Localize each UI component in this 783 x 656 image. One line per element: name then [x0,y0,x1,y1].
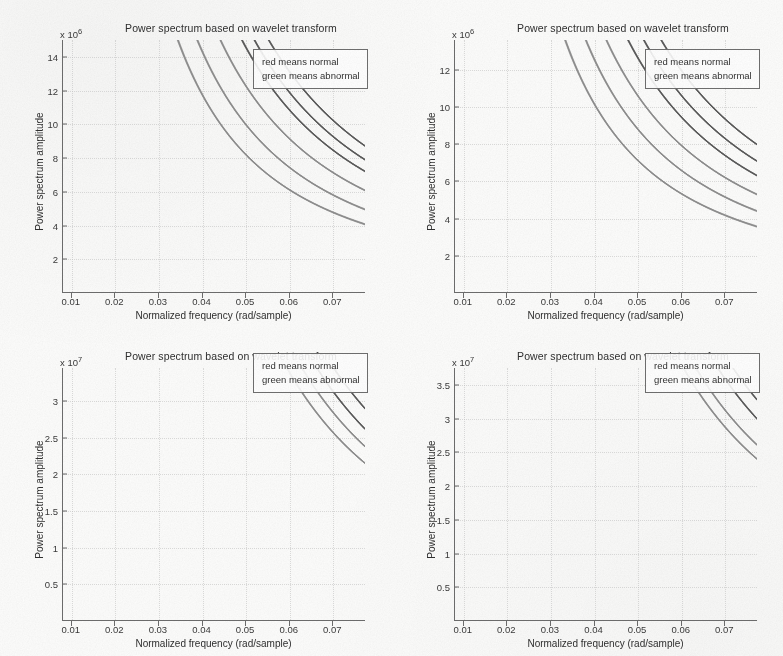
y-tick-label: 6 [53,186,58,197]
y-tick-label: 2.5 [437,447,450,458]
y-tick-mark [454,418,459,419]
y-tick-mark [454,106,459,107]
y-tick-mark [454,587,459,588]
y-tick-label: 8 [445,139,450,150]
y-tick-label: 0.5 [45,579,58,590]
legend-entry-abnormal: green means abnormal [654,373,752,387]
plot-panel-top-left: Power spectrum based on wavelet transfor… [0,0,391,328]
x-tick-labels: 0.010.020.030.040.050.060.07 [62,296,365,310]
x-tick-mark [637,621,638,626]
legend-box: red means normal green means abnormal [253,49,368,89]
y-tick-label: 3 [53,396,58,407]
x-tick-mark [681,621,682,626]
x-axis-label: Normalized frequency (rad/sample) [62,638,365,649]
y-tick-mark [454,255,459,256]
y-tick-label: 6 [445,176,450,187]
y-tick-mark [454,144,459,145]
x-tick-mark [506,293,507,298]
legend-box: red means normal green means abnormal [253,353,368,393]
y-axis-exponent-power: 6 [78,27,82,36]
y-tick-label: 3 [445,413,450,424]
legend-entry-abnormal: green means abnormal [262,373,360,387]
legend-entry-abnormal: green means abnormal [262,69,360,83]
y-tick-label: 1.5 [437,514,450,525]
x-tick-mark [463,621,464,626]
x-tick-mark [245,621,246,626]
y-tick-mark [62,584,67,585]
x-tick-labels: 0.010.020.030.040.050.060.07 [454,296,757,310]
x-tick-labels: 0.010.020.030.040.050.060.07 [454,624,757,638]
legend-box: red means normal green means abnormal [645,353,760,393]
x-tick-mark [158,293,159,298]
y-tick-mark [62,511,67,512]
y-tick-mark [62,401,67,402]
y-tick-label: 4 [445,213,450,224]
y-tick-mark [454,69,459,70]
x-tick-mark [332,293,333,298]
x-tick-mark [114,293,115,298]
y-tick-mark [454,553,459,554]
x-tick-mark [724,621,725,626]
x-tick-mark [332,621,333,626]
y-axis-exponent: x 107 [452,355,474,368]
y-tick-mark [454,218,459,219]
x-tick-mark [594,621,595,626]
plot-axes [454,368,757,621]
spectrum-curves [455,368,757,620]
x-tick-mark [158,621,159,626]
y-axis-exponent-base: x 10 [452,357,470,368]
y-tick-label: 2 [445,250,450,261]
x-tick-mark [463,293,464,298]
y-tick-label: 1 [53,542,58,553]
x-tick-mark [71,293,72,298]
y-tick-mark [62,124,67,125]
plot-title: Power spectrum based on wavelet transfor… [478,22,768,34]
y-tick-mark [454,181,459,182]
y-tick-mark [454,452,459,453]
y-tick-label: 0.5 [437,582,450,593]
y-tick-label: 2.5 [45,432,58,443]
legend-entry-normal: red means normal [654,359,752,373]
x-tick-mark [681,293,682,298]
y-tick-mark [454,519,459,520]
y-tick-label: 14 [47,51,58,62]
legend-entry-abnormal: green means abnormal [654,69,752,83]
y-tick-mark [62,158,67,159]
legend-entry-normal: red means normal [262,55,360,69]
y-axis-exponent: x 106 [452,27,474,40]
y-tick-mark [62,90,67,91]
y-tick-mark [62,547,67,548]
x-axis-label: Normalized frequency (rad/sample) [62,310,365,321]
x-axis-label: Normalized frequency (rad/sample) [454,638,757,649]
y-tick-label: 1 [445,548,450,559]
x-tick-mark [594,293,595,298]
legend-box: red means normal green means abnormal [645,49,760,89]
y-axis-exponent-base: x 10 [60,29,78,40]
x-tick-mark [289,293,290,298]
legend-entry-normal: red means normal [654,55,752,69]
y-tick-label: 2 [53,254,58,265]
y-tick-label: 2 [53,469,58,480]
y-tick-mark [454,384,459,385]
y-axis-exponent-power: 7 [78,355,82,364]
plot-title: Power spectrum based on wavelet transfor… [86,22,376,34]
y-axis-label: Power spectrum amplitude [426,72,437,272]
y-tick-label: 10 [47,119,58,130]
x-axis-label: Normalized frequency (rad/sample) [454,310,757,321]
x-tick-mark [202,293,203,298]
x-tick-mark [71,621,72,626]
y-tick-mark [62,437,67,438]
x-tick-mark [114,621,115,626]
plot-axes [62,368,365,621]
spectrum-curves [63,368,365,620]
y-axis-label: Power spectrum amplitude [34,72,45,272]
y-axis-exponent-power: 6 [470,27,474,36]
y-tick-label: 8 [53,153,58,164]
x-tick-mark [289,621,290,626]
y-axis-exponent-base: x 10 [60,357,78,368]
y-tick-label: 4 [53,220,58,231]
x-tick-mark [506,621,507,626]
x-tick-mark [550,293,551,298]
y-tick-mark [62,56,67,57]
y-tick-label: 12 [47,85,58,96]
